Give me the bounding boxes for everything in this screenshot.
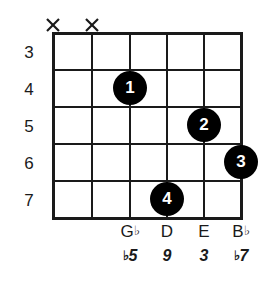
- string-line-3: [129, 33, 131, 219]
- interval-string-4: 9: [147, 248, 187, 264]
- string-line-1: [52, 33, 55, 219]
- finger-dot-4: 4: [150, 182, 184, 216]
- interval-string-6: ♭7: [221, 248, 261, 264]
- note-name-string-4: D: [147, 222, 187, 240]
- fret-number-7: 7: [16, 192, 42, 209]
- fret-line-nut: [52, 32, 243, 35]
- interval-degree-3: 5: [129, 247, 138, 264]
- note-letter-6: B: [232, 222, 243, 241]
- fret-line-4-5: [52, 106, 243, 108]
- note-letter-3: G: [120, 222, 133, 241]
- mute-x-icon-string-1: [45, 17, 61, 33]
- chord-diagram: 3 4 5 6 7 1 2 3 4 G♭ D E B♭ ♭5 9 3: [0, 0, 269, 283]
- finger-dot-3: 3: [224, 145, 258, 179]
- fret-line-bottom: [52, 217, 243, 220]
- note-letter-5: E: [198, 222, 209, 241]
- fret-number-5: 5: [16, 118, 42, 135]
- interval-string-3: ♭5: [110, 248, 150, 264]
- fret-line-3-4: [52, 69, 243, 71]
- mute-x-icon-string-2: [84, 17, 100, 33]
- note-accidental-3: ♭: [134, 223, 140, 238]
- finger-dot-2: 2: [187, 108, 221, 142]
- fret-number-3: 3: [16, 44, 42, 61]
- note-accidental-6: ♭: [244, 223, 250, 238]
- string-line-2: [91, 33, 93, 219]
- note-letter-4: D: [161, 222, 173, 241]
- note-name-string-6: B♭: [221, 222, 261, 240]
- fret-line-5-6: [52, 143, 243, 145]
- note-name-string-5: E: [184, 222, 224, 240]
- note-name-string-3: G♭: [110, 222, 150, 240]
- fret-line-6-7: [52, 180, 243, 182]
- interval-degree-5: 3: [200, 247, 209, 264]
- fret-number-6: 6: [16, 155, 42, 172]
- string-line-6: [240, 33, 243, 219]
- finger-dot-1: 1: [113, 71, 147, 105]
- interval-degree-6: 7: [240, 247, 249, 264]
- interval-string-5: 3: [184, 248, 224, 264]
- fret-number-4: 4: [16, 81, 42, 98]
- interval-degree-4: 9: [163, 247, 172, 264]
